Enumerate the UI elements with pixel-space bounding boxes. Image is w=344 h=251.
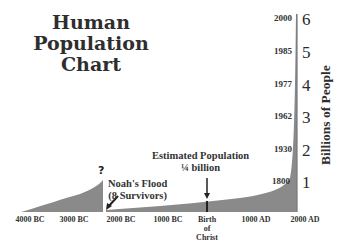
flood-annotation: Noah's Flood (8 Survivors) <box>108 178 167 202</box>
y-tick-5: 5 <box>302 44 311 61</box>
birth-line-2: of <box>189 224 225 233</box>
flood-line-2: (8 Survivors) <box>108 190 167 202</box>
est-line-2: ¼ billion <box>152 162 249 174</box>
year-label-1930: 1930 <box>262 144 292 154</box>
x-tick-1000ad: 1000 AD <box>238 215 274 224</box>
y-tick-4: 4 <box>302 77 311 94</box>
year-label-2000: 2000 <box>262 13 292 23</box>
x-tick-2000bc: 2000 BC <box>103 215 139 224</box>
est-line-1: Estimated Population <box>152 150 249 162</box>
x-tick-birth-of-christ: Birth of Christ <box>189 215 225 242</box>
pre-flood-area <box>21 180 103 212</box>
x-tick-2000ad: 2000 AD <box>287 215 323 224</box>
y-tick-3: 3 <box>302 109 311 126</box>
plot-area <box>0 0 344 251</box>
x-tick-1000bc: 1000 BC <box>150 215 186 224</box>
x-tick-3000bc: 3000 BC <box>56 215 92 224</box>
y-axis-label: Billions of People <box>318 55 336 175</box>
x-tick-4000bc: 4000 BC <box>12 215 48 224</box>
question-mark-annotation: ? <box>98 164 104 177</box>
birth-line-1: Birth <box>189 215 225 224</box>
y-tick-1: 1 <box>302 174 311 191</box>
estimated-population-annotation: Estimated Population ¼ billion <box>152 150 249 174</box>
year-label-1985: 1985 <box>262 46 292 56</box>
year-label-1800: 1800 <box>260 176 290 186</box>
y-tick-6: 6 <box>302 11 311 28</box>
y-tick-2: 2 <box>302 142 311 159</box>
year-label-1977: 1977 <box>262 79 292 89</box>
year-label-1962: 1962 <box>262 111 292 121</box>
birth-line-3: Christ <box>189 233 225 242</box>
flood-line-1: Noah's Flood <box>108 178 167 190</box>
